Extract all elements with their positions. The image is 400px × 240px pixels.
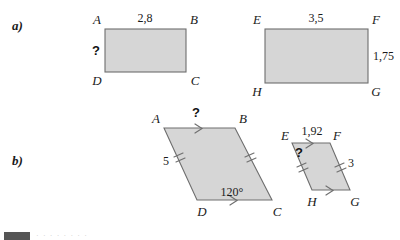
parallelogram-efgh-vertex-e: E xyxy=(280,128,289,143)
parallelogram-abcd-vertex-c: C xyxy=(273,204,282,219)
footer-marker-block xyxy=(4,232,30,240)
rectangle-efgh-vertex-g: G xyxy=(371,84,381,99)
rectangle-efgh-vertex-e: E xyxy=(252,12,261,27)
rectangle-abcd-vertex-d: D xyxy=(91,73,102,88)
parallelogram-efgh-vertex-g: G xyxy=(350,194,360,209)
parallelogram-efgh-vertex-h: H xyxy=(306,194,317,209)
rectangle-efgh-right-length: 1,75 xyxy=(373,49,394,63)
rectangle-abcd-left-unknown: ? xyxy=(92,43,100,58)
parallelogram-abcd-vertex-b: B xyxy=(239,111,247,126)
footer-text: · · · · · · · · xyxy=(36,231,88,240)
parallelogram-abcd-shape xyxy=(164,128,272,200)
parallelogram-abcd-angle: 120° xyxy=(221,185,244,199)
rectangle-efgh-vertex-h: H xyxy=(251,84,262,99)
rectangle-efgh-vertex-f: F xyxy=(371,12,381,27)
worksheet-page: a) A B C D 2,8 ? E F G H 3,5 1,75 b) A B… xyxy=(0,0,400,240)
rectangle-abcd-shape xyxy=(105,29,186,72)
rectangle-efgh-shape xyxy=(265,29,368,83)
parallelogram-efgh-right-length: 3 xyxy=(348,156,354,170)
rectangle-abcd-vertex-a: A xyxy=(92,12,101,27)
part-label-a: a) xyxy=(12,18,23,33)
parallelogram-abcd-top-unknown: ? xyxy=(192,105,200,120)
parallelogram-efgh-vertex-f: F xyxy=(332,128,342,143)
parallelogram-efgh-left-unknown: ? xyxy=(295,145,303,160)
parallelogram-abcd-vertex-a: A xyxy=(151,111,160,126)
rectangle-efgh-top-length: 3,5 xyxy=(309,11,324,25)
parallelogram-abcd-vertex-d: D xyxy=(196,204,207,219)
rectangle-abcd-top-length: 2,8 xyxy=(138,11,153,25)
rectangle-abcd-vertex-b: B xyxy=(190,12,198,27)
parallelogram-abcd-left-length: 5 xyxy=(163,154,169,168)
parallelogram-efgh-top-length: 1,92 xyxy=(302,124,323,138)
part-label-b: b) xyxy=(12,153,23,168)
geometry-figure-canvas: a) A B C D 2,8 ? E F G H 3,5 1,75 b) A B… xyxy=(0,0,400,240)
rectangle-abcd-vertex-c: C xyxy=(191,73,200,88)
